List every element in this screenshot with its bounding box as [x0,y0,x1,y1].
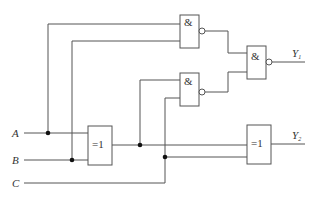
input-label-b: B [12,154,19,166]
wire-x1-to-g2 [140,80,180,145]
xor-gate-x1: =1 [88,126,112,165]
nand-gate-g2: & [180,73,205,106]
junction-dot [138,143,143,148]
nand-gate-g1: & [180,15,205,48]
junction-dot [46,131,51,136]
junction-dot [70,158,75,163]
input-label-c: C [12,177,20,189]
gate-symbol: =1 [251,137,263,149]
xor-gate-x2: =1 [247,125,271,164]
output-label-y1: Y1 [292,47,301,60]
gate-symbol: =1 [92,138,104,150]
logic-circuit-diagram: & & & =1 =1 A B C Y1 Y2 [0,0,318,199]
nand-gate-g3: & [247,46,272,79]
wire-g1-to-g3 [205,31,247,53]
input-label-a: A [11,127,19,139]
gate-symbol: & [184,75,193,87]
gate-symbol: & [184,16,193,28]
wire-g2-to-g3 [205,72,247,92]
junction-dot [163,155,168,160]
gate-symbol: & [251,50,260,62]
output-label-y2: Y2 [292,129,301,142]
wire-a-to-g1 [48,24,180,133]
